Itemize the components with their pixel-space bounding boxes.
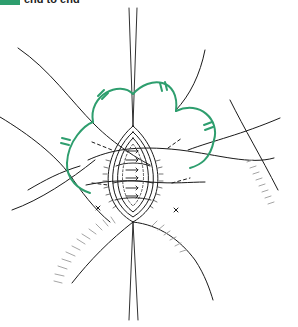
anastomosis-opening: [108, 126, 158, 222]
anastomosis-diagram: [0, 0, 298, 327]
traction-sutures: [67, 82, 215, 193]
vertical-lines: [129, 8, 138, 320]
suture-ribs: [103, 160, 163, 208]
tissue-contours: [0, 48, 280, 300]
dashed-lines: [92, 138, 190, 185]
